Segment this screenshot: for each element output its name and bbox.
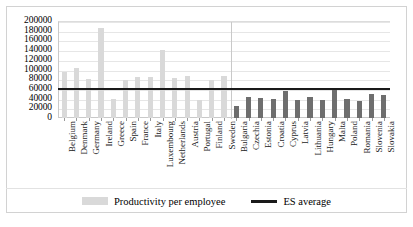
bar [332,88,337,118]
x-axis-labels: BelgiumDenmarkGermanyIrelandGreeceSpainF… [58,121,390,183]
x-axis-category-label: France [141,121,150,146]
legend-item-es-average: ES average [251,196,331,207]
bar [86,79,91,118]
x-axis-category-label: Germany [92,121,101,155]
bar [111,99,116,118]
bar [246,97,251,118]
bar [369,94,374,118]
x-axis-category-label: Ireland [105,121,114,146]
bar [148,77,153,118]
bar [197,100,202,118]
bar [209,80,214,118]
x-axis-category-label: Greece [117,121,126,146]
x-axis-category-label: Portugal [203,121,212,152]
x-axis-category-label: Austria [191,121,200,148]
bar [283,91,288,118]
x-axis-category-label: Finland [215,121,224,149]
bar [123,80,128,118]
x-axis-category-label: Luxembourg [166,121,175,167]
bar [357,101,362,118]
x-axis-category-label: Belgium [68,121,77,152]
bar [135,77,140,118]
x-axis-category-label: Italy [154,121,163,138]
bar [320,100,325,118]
y-axis-labels: 2000001800001600001400001200001000008000… [0,21,55,118]
x-axis-category-label: Croatia [277,121,286,148]
bar [160,50,165,118]
x-axis-category-label: Sweden [228,121,237,150]
x-axis-category-label: Lithuania [314,121,323,156]
legend-label-es-average: ES average [283,196,331,207]
x-axis-category-label: Netherlands [178,121,187,164]
chart-legend: Productivity per employee ES average [6,188,407,213]
bar [381,95,386,118]
x-axis-category-label: Latvia [301,121,310,144]
y-axis-tick-label: 0 [47,113,52,123]
x-axis-category-label: Cyprus [289,121,298,147]
bar [172,78,177,118]
legend-line-swatch-icon [251,200,277,203]
bar [307,97,312,118]
x-axis-category-label: Romania [363,121,372,154]
bar [185,76,190,118]
bar [98,28,103,118]
bar [234,106,239,118]
legend-label-productivity: Productivity per employee [114,196,225,207]
chart-figure: 2000001800001600001400001200001000008000… [0,0,413,227]
legend-item-productivity: Productivity per employee [82,196,225,207]
bar [62,72,67,118]
bar [344,99,349,118]
x-axis-category-label: Bulgaria [240,121,249,152]
x-axis-category-label: Malta [338,121,347,142]
bar [221,76,226,118]
x-axis-category-label: Poland [350,121,359,146]
bar [258,98,263,118]
bar [271,99,276,118]
x-axis-category-label: Slovakia [387,121,396,153]
x-axis-category-label: Spain [129,121,138,142]
legend-bar-swatch-icon [82,197,108,205]
x-axis-category-label: Hungary [326,121,335,153]
es-average-line [58,88,390,90]
x-axis-category-label: Slovenia [375,121,384,153]
bar [295,100,300,118]
x-axis-category-label: Czechia [252,121,261,150]
x-axis-category-label: Estonia [264,121,273,148]
bar [74,68,79,118]
bars-layer [58,21,390,118]
x-axis-category-label: Denmark [80,121,89,155]
